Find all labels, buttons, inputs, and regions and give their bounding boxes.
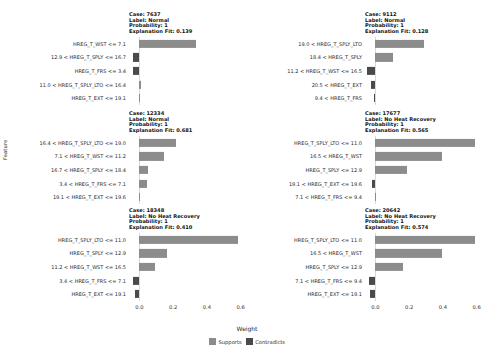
feature-label: HREG_T_SPLY <= 12.9 — [306, 264, 362, 270]
legend-label: Supports — [219, 339, 242, 345]
x-axis-tick: 0.2 — [169, 304, 177, 310]
bar-track — [362, 233, 480, 247]
feature-weight-bar — [139, 236, 238, 244]
feature-label: 11.2 < HREG_T_WST <= 16.5 — [51, 264, 126, 270]
feature-label: 7.1 < HREG_T_FRS <= 9.4 — [295, 278, 362, 284]
x-axis-tick: 0.4 — [203, 304, 211, 310]
feature-label: 19.1 < HREG_T_EXT <= 19.6 — [53, 194, 126, 200]
x-axis: 0.00.20.40.6 — [126, 302, 244, 316]
bar-track — [362, 78, 480, 92]
feature-row: HREG_T_SPLY <= 12.9 — [248, 260, 480, 274]
bar-track — [126, 260, 244, 274]
feature-weight-bar — [375, 40, 424, 48]
feature-weight-bar — [375, 139, 474, 147]
feature-row: HREG_T_SPLY <= 12.9 — [12, 247, 244, 261]
facet-rows: HREG_T_SPLY_LTO <= 11.016.5 < HREG_T_WST… — [248, 136, 480, 204]
x-axis-tick: 0.6 — [237, 304, 245, 310]
feature-row: 11.0 < HREG_T_SPLY_LTO <= 16.4 — [12, 78, 244, 92]
bar-track — [126, 274, 244, 288]
feature-row: 20.5 < HREG_T_EXT — [248, 78, 480, 92]
feature-label: HREG_T_WST <= 7.1 — [73, 41, 126, 47]
bar-track — [126, 287, 244, 301]
feature-weight-bar — [374, 94, 375, 102]
y-axis-label: Feature — [2, 140, 8, 160]
feature-weight-bar — [139, 180, 146, 188]
feature-weight-bar — [139, 193, 140, 201]
bar-track — [362, 260, 480, 274]
feature-row: 16.4 < HREG_T_SPLY_LTO <= 19.0 — [12, 136, 244, 150]
feature-weight-bar — [139, 81, 141, 89]
feature-weight-bar — [375, 53, 393, 61]
facet-rows: 16.4 < HREG_T_SPLY_LTO <= 19.07.1 < HREG… — [12, 136, 244, 204]
facet-explanation-fit-text: Explanation Fit: 0.139 — [129, 29, 192, 35]
x-axis-tick: 0.0 — [371, 304, 379, 310]
feature-row: HREG_T_EXT <= 19.1 — [12, 287, 244, 301]
bar-track — [126, 91, 244, 105]
feature-weight-bar — [372, 180, 376, 188]
feature-row: 12.9 < HREG_T_SPLY <= 16.7 — [12, 51, 244, 65]
bar-track — [362, 177, 480, 191]
bar-track — [126, 150, 244, 164]
facet-panel: Case: 9112Label: NormalProbability: 1Exp… — [248, 10, 480, 106]
facet-rows: 19.0 < HREG_T_SPLY_LTO18.4 < HREG_T_SPLY… — [248, 37, 480, 105]
facet-panel: Case: 20642Label: No Heat RecoveryProbab… — [248, 206, 480, 302]
facet-panel: Case: 18348Label: No Heat RecoveryProbab… — [12, 206, 244, 302]
feature-label: 20.5 < HREG_T_EXT — [312, 82, 362, 88]
feature-row: 19.1 < HREG_T_EXT <= 19.6 — [248, 177, 480, 191]
feature-weight-bar — [133, 67, 139, 75]
bar-track — [362, 163, 480, 177]
feature-weight-bar — [375, 263, 403, 271]
legend-item: Supports — [209, 338, 242, 345]
feature-label: 16.5 < HREG_T_WST — [310, 153, 362, 159]
feature-label: 16.7 < HREG_T_SPLY <= 18.4 — [51, 167, 126, 173]
feature-label: HREG_T_SPLY <= 12.9 — [306, 167, 362, 173]
facet-header: Case: 12334Label: NormalProbability: 1Ex… — [129, 111, 192, 133]
bar-track — [362, 91, 480, 105]
x-axis-tick: 0.2 — [405, 304, 413, 310]
feature-weight-bar — [139, 249, 166, 257]
feature-row: HREG_T_EXT <= 19.1 — [248, 287, 480, 301]
facet-header: Case: 18348Label: No Heat RecoveryProbab… — [129, 208, 200, 230]
facet-header: Case: 17677Label: No Heat RecoveryProbab… — [365, 111, 436, 133]
feature-label: HREG_T_SPLY_LTO <= 11.0 — [294, 140, 362, 146]
lime-explanation-chart: Feature Case: 7637Label: NormalProbabili… — [0, 0, 494, 354]
feature-row: 16.5 < HREG_T_WST — [248, 247, 480, 261]
feature-weight-bar — [367, 67, 376, 75]
bar-track — [362, 64, 480, 78]
facet-rows: HREG_T_WST <= 7.112.9 < HREG_T_SPLY <= 1… — [12, 37, 244, 105]
x-axis: 0.00.20.40.6 — [362, 302, 480, 316]
feature-row: 3.4 < HREG_T_FRS <= 7.1 — [12, 177, 244, 191]
feature-weight-bar — [369, 277, 375, 285]
feature-weight-bar — [139, 94, 140, 102]
feature-row: 11.2 < HREG_T_WST <= 16.5 — [12, 260, 244, 274]
feature-label: 9.4 < HREG_T_FRS — [315, 95, 362, 101]
feature-weight-bar — [370, 290, 375, 298]
bar-track — [362, 136, 480, 150]
bar-track — [126, 247, 244, 261]
bar-track — [362, 274, 480, 288]
feature-weight-bar — [133, 277, 139, 285]
bar-track — [362, 150, 480, 164]
facet-explanation-fit-text: Explanation Fit: 0.128 — [365, 29, 428, 35]
feature-row: 7.1 < HREG_T_FRS <= 9.4 — [248, 190, 480, 204]
feature-row: 18.4 < HREG_T_SPLY — [248, 51, 480, 65]
feature-label: 3.4 < HREG_T_FRS <= 7.1 — [59, 181, 126, 187]
feature-weight-bar — [139, 40, 196, 48]
x-axis-tick: 0.4 — [439, 304, 447, 310]
facet-panel: Case: 17677Label: No Heat RecoveryProbab… — [248, 109, 480, 205]
bar-track — [126, 233, 244, 247]
feature-label: 3.4 < HREG_T_FRS <= 7.1 — [59, 278, 126, 284]
feature-weight-bar — [133, 53, 139, 61]
feature-row: 7.1 < HREG_T_WST <= 11.2 — [12, 150, 244, 164]
bar-track — [362, 51, 480, 65]
feature-weight-bar — [375, 249, 441, 257]
bar-track — [362, 287, 480, 301]
facet-rows: HREG_T_SPLY_LTO <= 11.0HREG_T_SPLY <= 12… — [12, 233, 244, 301]
facet-explanation-fit-text: Explanation Fit: 0.565 — [365, 128, 436, 134]
facet-header: Case: 20642Label: No Heat RecoveryProbab… — [365, 208, 436, 230]
feature-label: 19.1 < HREG_T_EXT <= 19.6 — [289, 181, 362, 187]
facet-explanation-fit-text: Explanation Fit: 0.574 — [365, 225, 436, 231]
feature-row: 11.2 < HREG_T_WST <= 16.5 — [248, 64, 480, 78]
facet-explanation-fit-text: Explanation Fit: 0.410 — [129, 225, 200, 231]
bar-track — [126, 64, 244, 78]
